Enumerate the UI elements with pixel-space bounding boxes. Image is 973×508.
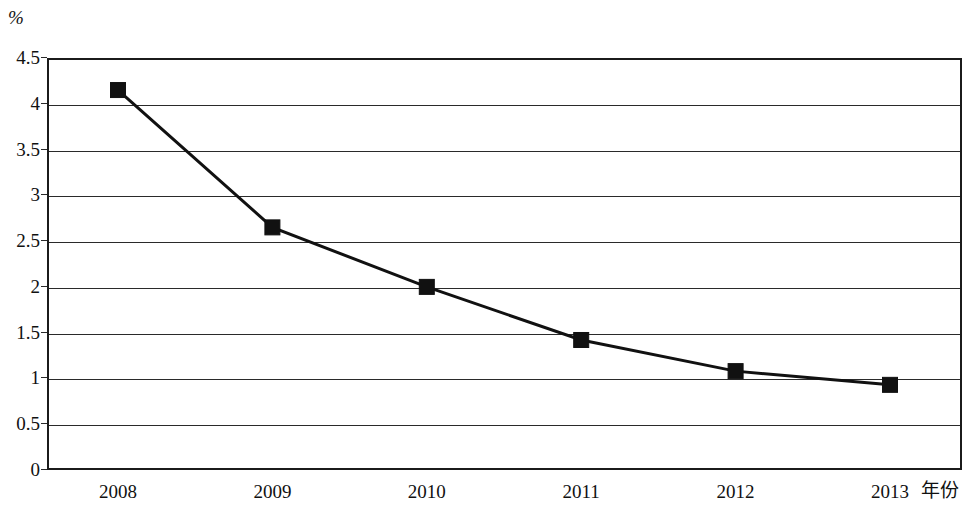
gridline [49,379,960,380]
y-axis-label: 2 [31,277,41,296]
y-axis-label: 1 [31,368,41,387]
gridline [49,288,960,289]
y-axis-label: 3.5 [16,140,40,159]
x-axis-label: 2008 [99,481,137,502]
y-axis-label: 3 [31,185,41,204]
gridline [49,151,960,152]
plot-area [47,58,962,470]
y-axis-label: 2.5 [16,231,40,250]
y-axis-label: 0 [31,460,41,479]
y-axis-label: 0.5 [16,414,40,433]
y-axis-tick [41,332,47,333]
x-axis-label: 2011 [563,481,600,502]
x-axis-label: 2010 [408,481,446,502]
y-axis-label: 4.5 [16,48,40,67]
gridline [49,196,960,197]
y-axis-tick [41,286,47,287]
line-chart: % 年份 00.511.522.533.544.5200820092010201… [0,0,973,508]
y-axis-tick [41,57,47,58]
y-axis-label: 4 [31,94,41,113]
y-axis-unit-label: % [8,7,24,29]
y-axis-label: 1.5 [16,323,40,342]
x-axis-title: 年份 [921,480,959,501]
x-axis-label: 2009 [253,481,291,502]
gridline [49,105,960,106]
gridline [49,242,960,243]
y-axis-tick [41,149,47,150]
y-axis-tick [41,240,47,241]
y-axis-tick [41,469,47,470]
gridline [49,425,960,426]
gridline [49,334,960,335]
x-axis-label: 2013 [871,481,909,502]
y-axis-tick [41,194,47,195]
y-axis-tick [41,423,47,424]
y-axis-tick [41,103,47,104]
x-axis-label: 2012 [717,481,755,502]
y-axis-tick [41,377,47,378]
